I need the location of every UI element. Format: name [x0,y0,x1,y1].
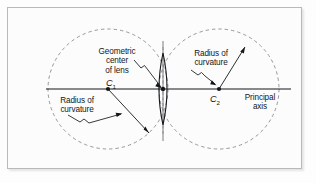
label-c1: C1 [101,79,121,91]
label-c2: C2 [205,95,225,107]
left-radius-leader-line [89,114,121,123]
lens-center-dot [161,87,165,91]
left-radius-leader-squiggle [68,115,89,123]
left-radius-leader-arrowhead [116,113,123,117]
c2-point-dot [217,87,221,91]
figure-frame: Geometric center of lens C1 Radius of cu… [7,7,302,169]
label-c2-subscript: 2 [217,99,220,106]
left-radius-arrowhead [144,126,149,133]
figure-root: Geometric center of lens C1 Radius of cu… [0,0,316,183]
label-radius-of-curvature-right: Radius of curvature [180,49,242,68]
right-radius-leader-squiggle [191,70,205,76]
label-radius-of-curvature-left: Radius of curvature [46,96,108,115]
label-principal-axis: Principal axis [235,93,285,112]
lens-diagram-svg [8,8,303,170]
label-c1-subscript: 1 [113,83,116,90]
left-radius-line [108,89,149,133]
label-geometric-center-of-lens: Geometric center of lens [86,47,148,75]
